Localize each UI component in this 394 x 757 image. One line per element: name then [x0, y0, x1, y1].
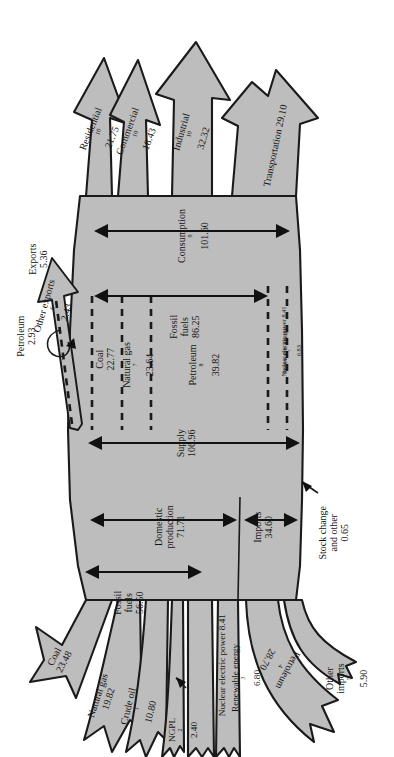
- label-stock-change: Stock change and other 0.65: [317, 485, 351, 581]
- label-exports-name: Exports: [27, 224, 38, 294]
- label-natural-gas-supply: Natural gas7 23.64: [121, 327, 155, 403]
- stock-change-pointer: [302, 481, 318, 493]
- label-oi-name2: imports5: [336, 644, 359, 714]
- label-consumption-name: Consumption9: [176, 193, 199, 279]
- energy-flow-diagram: .fl{fill:#bdbdbd;stroke:#1a1a1a;stroke-w…: [0, 0, 394, 757]
- label-supply-name: Supply: [175, 405, 186, 481]
- label-ngpl-name: NGPL2 2.40: [167, 691, 199, 757]
- label-coal-supply: Coal 22.77: [94, 326, 116, 392]
- label-imports: Imports 34.60: [252, 492, 274, 562]
- label-imports-name: Imports: [252, 492, 263, 562]
- label-domestic-production: Domestic production 71.71: [153, 485, 187, 569]
- label-petroleum-export: Petroleum 2.93: [15, 298, 37, 374]
- label-consumption-value: 101.60: [199, 193, 210, 279]
- label-nucp-name: Nuclear electric power 8.41: [217, 589, 227, 741]
- label-consumption: Consumption9 101.60: [176, 193, 210, 279]
- label-petroleum-supply: Petroleum8 39.82: [187, 327, 221, 403]
- label-imports-value: 34.60: [263, 492, 274, 562]
- label-dp-name: Domestic: [153, 485, 164, 569]
- label-sc-name2: and other: [328, 485, 339, 581]
- label-nuclear-production: Nuclear electric power 8.41: [217, 589, 227, 741]
- label-ngpl: NGPL2 2.40: [167, 691, 199, 757]
- label-renew-supply-name: Renewable energy7 6.83: [281, 293, 302, 409]
- label-sc-name: Stock change: [317, 485, 328, 581]
- label-supply: Supply 106.96: [175, 405, 197, 481]
- label-ffp-name: Fossil: [112, 570, 123, 636]
- label-coal-supply-value: 22.77: [105, 326, 116, 392]
- label-ff-supply-name: Fossil: [168, 294, 179, 360]
- label-pet-supply-name: Petroleum8: [187, 327, 210, 403]
- label-ffp-value: 56.50: [135, 570, 146, 636]
- label-sc-value: 0.65: [340, 485, 351, 581]
- label-oi-name: Other: [324, 644, 335, 714]
- label-ffp-name2: fuels: [123, 570, 134, 636]
- label-other-imports: Other imports5 5.90: [324, 644, 369, 714]
- label-renewable-supply: Renewable energy7 6.83: [281, 293, 302, 409]
- label-pet-supply-value: 39.82: [210, 327, 221, 403]
- label-dp-value: 71.71: [176, 485, 187, 569]
- label-petroleum-export-name: Petroleum: [15, 298, 26, 374]
- label-coal-supply-name: Coal: [94, 326, 105, 392]
- label-ng-supply-name: Natural gas7: [121, 327, 144, 403]
- label-ng-supply-value: 23.64: [144, 327, 155, 403]
- label-oi-value: 5.90: [358, 644, 369, 714]
- label-petroleum-export-value: 2.93: [26, 298, 37, 374]
- label-supply-value: 106.96: [186, 405, 197, 481]
- label-dp-name2: production: [164, 485, 175, 569]
- label-fossil-fuels-production: Fossil fuels 56.50: [112, 570, 146, 636]
